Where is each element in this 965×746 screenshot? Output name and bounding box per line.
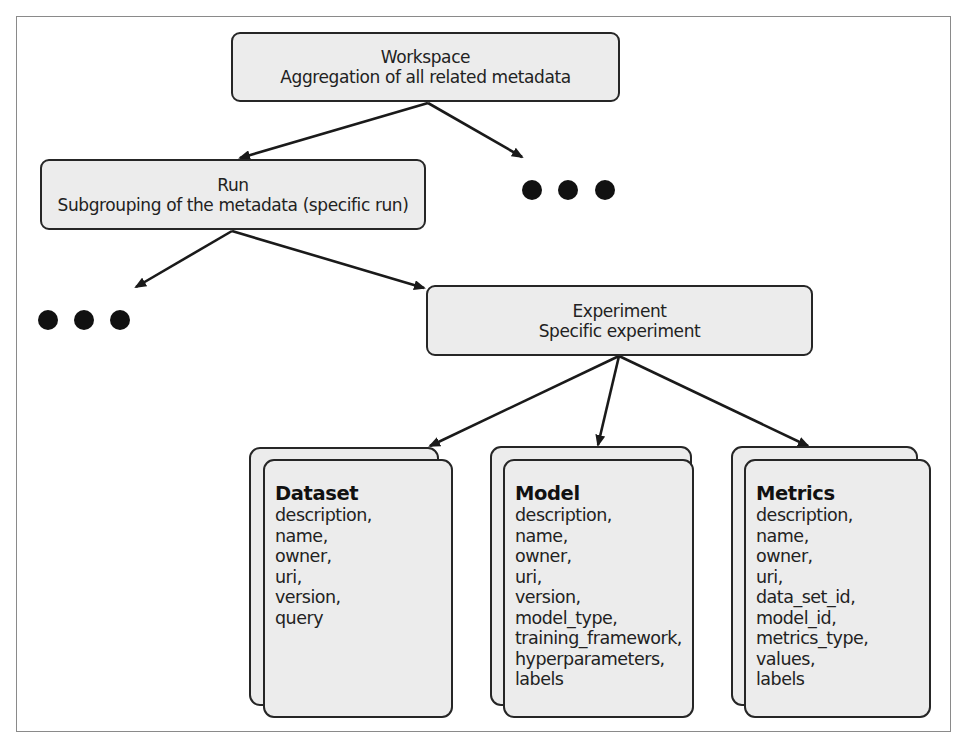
model-field: uri, xyxy=(515,567,692,588)
dataset-field: query xyxy=(275,608,451,629)
dataset-field: owner, xyxy=(275,546,451,567)
run-node: Run Subgrouping of the metadata (specifi… xyxy=(40,159,426,230)
model-field: name, xyxy=(515,526,692,547)
model-field: description, xyxy=(515,505,692,526)
model-field: hyperparameters, xyxy=(515,649,692,670)
workspace-title: Workspace xyxy=(381,47,470,67)
dataset-field: description, xyxy=(275,505,451,526)
metrics-field: values, xyxy=(756,649,929,670)
dataset-title: Dataset xyxy=(275,483,451,505)
metrics-field: uri, xyxy=(756,567,929,588)
dataset-field: name, xyxy=(275,526,451,547)
metrics-field: metrics_type, xyxy=(756,628,929,649)
ellipsis-dot xyxy=(595,180,615,200)
model-field: owner, xyxy=(515,546,692,567)
ellipsis-dot xyxy=(522,180,542,200)
experiment-subtitle: Specific experiment xyxy=(539,321,701,341)
metrics-title: Metrics xyxy=(756,483,929,505)
run-title: Run xyxy=(217,175,248,195)
dataset-field: version, xyxy=(275,587,451,608)
metrics-field: labels xyxy=(756,669,929,690)
workspace-node: Workspace Aggregation of all related met… xyxy=(231,32,620,102)
metrics-card: Metrics description, name, owner, uri, d… xyxy=(744,459,931,718)
ellipsis-dot xyxy=(558,180,578,200)
model-title: Model xyxy=(515,483,692,505)
model-field: model_type, xyxy=(515,608,692,629)
experiment-title: Experiment xyxy=(572,301,666,321)
experiment-node: Experiment Specific experiment xyxy=(426,285,813,356)
metrics-field: data_set_id, xyxy=(756,587,929,608)
run-subtitle: Subgrouping of the metadata (specific ru… xyxy=(58,195,409,215)
model-field: training_framework, xyxy=(515,628,692,649)
model-field: version, xyxy=(515,587,692,608)
dataset-card: Dataset description, name, owner, uri, v… xyxy=(263,459,453,718)
ellipsis-dot xyxy=(38,310,58,330)
ellipsis-dot xyxy=(110,310,130,330)
metrics-field: description, xyxy=(756,505,929,526)
model-field: labels xyxy=(515,669,692,690)
metrics-field: model_id, xyxy=(756,608,929,629)
workspace-subtitle: Aggregation of all related metadata xyxy=(280,67,570,87)
dataset-field: uri, xyxy=(275,567,451,588)
metrics-field: owner, xyxy=(756,546,929,567)
ellipsis-dot xyxy=(74,310,94,330)
metrics-field: name, xyxy=(756,526,929,547)
model-card: Model description, name, owner, uri, ver… xyxy=(503,459,694,718)
